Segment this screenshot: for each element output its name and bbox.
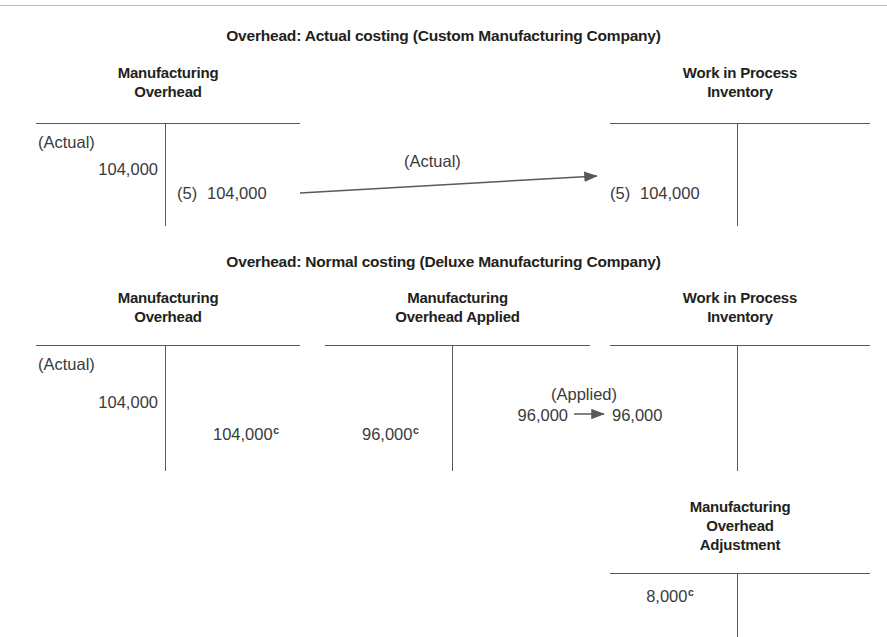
account-heading-line-3: Adjustment bbox=[610, 535, 870, 554]
debit-amount: 8,000 bbox=[646, 587, 687, 605]
debit-amount-with-note: 8,000c bbox=[610, 587, 730, 606]
debit-amount: 96,000 bbox=[612, 406, 662, 425]
t-account-diagram: Overhead: Actual costing (Custom Manufac… bbox=[0, 0, 887, 637]
account-heading-line-2: Overhead bbox=[610, 516, 870, 535]
account-heading-line-1: Manufacturing bbox=[610, 497, 870, 516]
account-heading-manufacturing-overhead-adjustment: Manufacturing Overhead Adjustment bbox=[610, 497, 870, 554]
footnote-marker-c: c bbox=[688, 586, 694, 598]
t-account-stem bbox=[737, 573, 738, 637]
t-account-top-rule bbox=[610, 573, 870, 574]
